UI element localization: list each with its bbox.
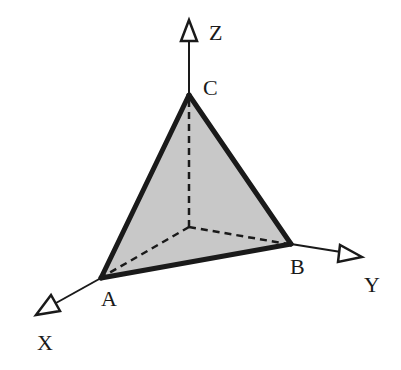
vertex-c-label: C <box>203 75 218 100</box>
z-axis-label: Z <box>209 20 222 45</box>
y-arrow-icon <box>338 245 362 262</box>
y-axis-label: Y <box>364 272 380 297</box>
tetrahedron-diagram: Z C A B Y X <box>0 0 401 370</box>
x-axis-label: X <box>37 330 53 355</box>
y-axis-line <box>291 244 341 252</box>
vertex-b-label: B <box>290 254 305 279</box>
x-axis-line <box>56 278 101 303</box>
vertex-a-label: A <box>101 286 117 311</box>
x-arrow-icon <box>36 295 60 315</box>
z-arrow-icon <box>181 20 197 41</box>
